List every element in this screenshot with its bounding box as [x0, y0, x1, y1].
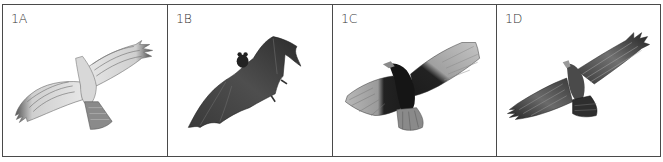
figure-strip: 1A: [2, 4, 661, 157]
vulture-illustration-icon: [333, 5, 496, 156]
hawk-illustration-icon: [3, 5, 167, 156]
bat-illustration-icon: [168, 5, 332, 156]
eagle-illustration-icon: [497, 5, 660, 156]
panel-1d: 1D: [497, 5, 660, 156]
panel-1b: 1B: [168, 5, 333, 156]
panel-1c: 1C: [333, 5, 497, 156]
panel-1a: 1A: [3, 5, 168, 156]
